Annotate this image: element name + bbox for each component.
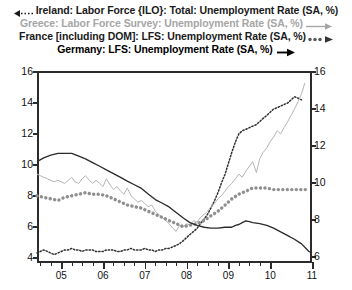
x-tick-label: 06 xyxy=(97,270,108,281)
x-tick-major xyxy=(312,262,314,269)
x-tick-major xyxy=(103,262,105,269)
x-tick-major xyxy=(187,262,189,269)
x-tick-label: 07 xyxy=(139,270,150,281)
y-tick-label-left: 8 xyxy=(13,190,33,201)
legend-label-ireland: Ireland: Labor Force {ILO}: Total: Unemp… xyxy=(36,4,338,17)
x-tick-minor xyxy=(176,262,177,266)
x-tick-minor xyxy=(72,262,73,266)
legend-item-germany: Germany: LFS: Unemployment Rate (SA, %) xyxy=(0,43,352,56)
right-arrow-solid-thin-icon xyxy=(306,19,332,28)
y-tick-label-left: 14 xyxy=(13,97,33,108)
legend-label-germany: Germany: LFS: Unemployment Rate (SA, %) xyxy=(57,43,272,56)
legend-label-greece: Greece: Labor Force Survey: Unemployment… xyxy=(20,17,303,30)
x-tick-minor xyxy=(218,262,219,266)
x-tick-major xyxy=(145,262,147,269)
y-tick-label-left: 12 xyxy=(13,128,33,139)
x-tick-label: 09 xyxy=(223,270,234,281)
y-tick-label-left: 4 xyxy=(13,252,33,263)
x-tick-minor xyxy=(93,262,94,266)
legend-item-greece: Greece: Labor Force Survey: Unemployment… xyxy=(0,17,352,30)
x-tick-minor xyxy=(239,262,240,266)
y-tick-label-right: 16 xyxy=(314,66,336,77)
y-tick-label-right: 12 xyxy=(314,140,336,151)
y-tick-label-right: 8 xyxy=(314,214,336,225)
y-tick-label-right: 6 xyxy=(314,251,336,262)
x-tick-major xyxy=(228,262,230,269)
series-line-france xyxy=(37,188,309,227)
x-tick-minor xyxy=(260,262,261,266)
legend-item-france: France [including DOM]: LFS: Unemploymen… xyxy=(0,30,352,43)
y-tick-label-right: 14 xyxy=(314,103,336,114)
chart-container: Ireland: Labor Force {ILO}: Total: Unemp… xyxy=(0,0,352,290)
x-tick-label: 11 xyxy=(307,270,317,281)
y-tick-label-left: 10 xyxy=(13,159,33,170)
x-tick-minor xyxy=(155,262,156,266)
x-tick-label: 10 xyxy=(265,270,276,281)
x-tick-minor xyxy=(113,262,114,266)
x-tick-minor xyxy=(124,262,125,266)
y-tick-label-right: 10 xyxy=(314,177,336,188)
x-tick-label: 05 xyxy=(56,270,67,281)
x-tick-label: 08 xyxy=(181,270,192,281)
x-tick-minor xyxy=(51,262,52,266)
y-tick-label-left: 6 xyxy=(13,221,33,232)
y-tick-label-left: 16 xyxy=(13,66,33,77)
right-arrow-thick-dotted-icon xyxy=(308,32,333,41)
legend-item-ireland: Ireland: Labor Force {ILO}: Total: Unemp… xyxy=(0,4,352,17)
x-tick-minor xyxy=(208,262,209,266)
x-tick-major xyxy=(270,262,272,269)
right-arrow-solid-icon xyxy=(277,45,295,54)
x-tick-minor xyxy=(82,262,83,266)
chart-legend: Ireland: Labor Force {ILO}: Total: Unemp… xyxy=(0,4,352,56)
x-tick-minor xyxy=(40,262,41,266)
x-tick-minor xyxy=(134,262,135,266)
data-series-layer xyxy=(37,72,312,262)
left-arrow-dotted-icon xyxy=(14,6,34,15)
x-tick-minor xyxy=(197,262,198,266)
series-line-germany xyxy=(37,153,312,253)
legend-label-france: France [including DOM]: LFS: Unemploymen… xyxy=(19,30,306,43)
x-tick-minor xyxy=(166,262,167,266)
series-line-ireland xyxy=(37,97,302,255)
x-tick-minor xyxy=(249,262,250,266)
x-tick-major xyxy=(61,262,63,269)
